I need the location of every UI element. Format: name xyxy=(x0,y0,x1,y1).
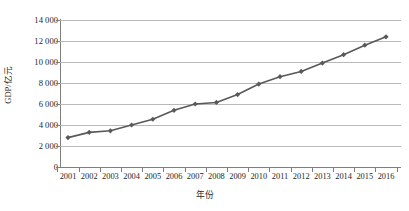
y-axis-tick-label: 8 000 xyxy=(14,79,58,88)
y-axis-tick-mark xyxy=(56,146,60,147)
y-axis-tick-label: 0 xyxy=(14,163,58,172)
y-axis-tick-mark xyxy=(56,125,60,126)
x-axis-tick-label: 2016 xyxy=(371,173,401,181)
x-axis-tick-mark xyxy=(121,168,122,172)
data-point-marker xyxy=(341,52,346,57)
data-point-marker xyxy=(299,69,304,74)
x-axis-tick-mark xyxy=(291,168,292,172)
x-axis-tick-mark xyxy=(142,168,143,172)
data-point-marker xyxy=(362,43,367,48)
x-axis-line xyxy=(60,167,401,168)
x-axis-tick-mark xyxy=(269,168,270,172)
y-axis-tick-mark xyxy=(56,83,60,84)
data-point-marker xyxy=(150,117,155,122)
y-axis-tick-label: 12 000 xyxy=(14,37,58,46)
data-point-marker xyxy=(171,108,176,113)
y-axis-tick-mark xyxy=(56,62,60,63)
data-point-marker xyxy=(108,128,113,133)
series-line xyxy=(68,37,386,138)
y-axis-tick-labels: 14 00012 00010 0008 0006 0004 0002 0000 xyxy=(12,0,58,211)
x-axis-tick-mark xyxy=(100,168,101,172)
data-series-gdp xyxy=(60,20,401,167)
y-axis-tick-mark xyxy=(56,41,60,42)
y-axis-tick-label: 6 000 xyxy=(14,100,58,109)
y-axis-tick-mark xyxy=(56,167,60,168)
data-point-marker xyxy=(87,130,92,135)
x-axis-tick-mark xyxy=(397,168,398,172)
x-axis-tick-mark xyxy=(333,168,334,172)
y-axis-tick-mark xyxy=(56,20,60,21)
x-axis-tick-mark xyxy=(206,168,207,172)
line-chart: GDP/亿元 14 00012 00010 0008 0006 0004 000… xyxy=(0,0,409,211)
x-axis-tick-mark xyxy=(248,168,249,172)
x-axis-tick-mark xyxy=(312,168,313,172)
x-axis-tick-mark xyxy=(79,168,80,172)
plot-area xyxy=(60,20,401,167)
data-point-marker xyxy=(383,34,388,39)
x-axis-tick-mark xyxy=(163,168,164,172)
data-point-marker xyxy=(193,101,198,106)
x-axis-tick-mark xyxy=(227,168,228,172)
y-axis-tick-label: 4 000 xyxy=(14,121,58,130)
y-axis-tick-label: 2 000 xyxy=(14,142,58,151)
data-point-marker xyxy=(277,74,282,79)
data-point-marker xyxy=(214,100,219,105)
series-markers xyxy=(65,34,388,140)
data-point-marker xyxy=(65,135,70,140)
x-axis-title: 年份 xyxy=(0,188,409,201)
y-axis-tick-label: 14 000 xyxy=(14,16,58,25)
data-point-marker xyxy=(256,81,261,86)
data-point-marker xyxy=(235,92,240,97)
data-point-marker xyxy=(129,122,134,127)
x-axis-tick-mark xyxy=(57,168,58,172)
x-axis-tick-mark xyxy=(354,168,355,172)
data-point-marker xyxy=(320,60,325,65)
x-axis-title-text: 年份 xyxy=(196,190,214,200)
y-axis-tick-mark xyxy=(56,104,60,105)
y-axis-tick-label: 10 000 xyxy=(14,58,58,67)
x-axis-tick-mark xyxy=(375,168,376,172)
x-axis-tick-mark xyxy=(185,168,186,172)
